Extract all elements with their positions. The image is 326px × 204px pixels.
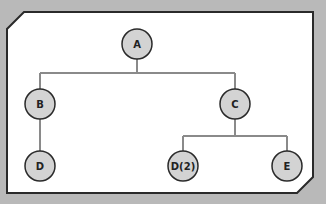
diagram-canvas: A B C D D(2) E bbox=[0, 0, 326, 204]
tree-node-b[interactable]: B bbox=[25, 89, 55, 119]
tree-node-d2[interactable]: D(2) bbox=[168, 151, 198, 181]
node-label: A bbox=[133, 39, 141, 50]
node-label: D(2) bbox=[171, 161, 195, 172]
tree-diagram: A B C D D(2) E bbox=[0, 0, 326, 204]
node-label: D bbox=[36, 161, 44, 172]
node-label: C bbox=[231, 99, 238, 110]
tree-node-d[interactable]: D bbox=[25, 151, 55, 181]
node-label: B bbox=[36, 99, 44, 110]
tree-node-a[interactable]: A bbox=[122, 29, 152, 59]
tree-node-e[interactable]: E bbox=[272, 151, 302, 181]
node-label: E bbox=[284, 161, 291, 172]
tree-node-c[interactable]: C bbox=[220, 89, 250, 119]
